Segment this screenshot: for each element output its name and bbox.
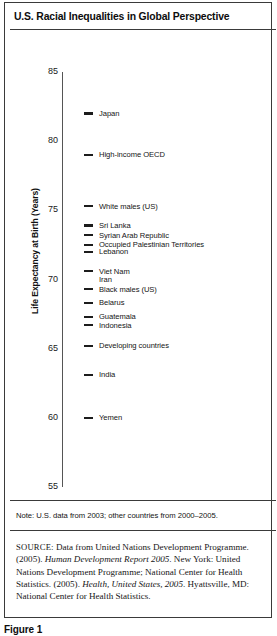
- figure-caption: Figure 1: [4, 624, 42, 635]
- data-point-marker: [84, 251, 93, 253]
- y-axis-tick-label: 85: [36, 67, 58, 76]
- data-point-marker: [84, 316, 93, 318]
- data-point-label: Yemen: [99, 414, 122, 422]
- data-point-marker: [84, 224, 93, 226]
- y-axis-tick-label: 70: [36, 275, 58, 284]
- data-point-marker: [84, 417, 93, 419]
- data-point-label: High-income OECD: [99, 151, 165, 159]
- data-point-marker: [84, 288, 93, 290]
- y-axis-line: [62, 72, 63, 487]
- data-point-marker: [84, 112, 93, 114]
- source-title-2: Health, United States, 2005: [82, 579, 183, 589]
- data-point-label: Iran: [99, 276, 112, 284]
- data-point-label: Lebanon: [99, 248, 128, 256]
- data-point-label: India: [99, 371, 115, 379]
- data-point-marker: [84, 302, 93, 304]
- y-axis-tick-label: 60: [36, 413, 58, 422]
- y-axis-tick-label: 80: [36, 136, 58, 145]
- figure-container: U.S. Racial Inequalities in Global Persp…: [4, 2, 272, 618]
- y-axis-title: Life Expectancy at Birth (Years): [30, 151, 40, 351]
- data-point-marker: [84, 345, 93, 347]
- title-divider: [10, 29, 276, 30]
- data-point-marker: [84, 244, 93, 246]
- data-point-label: Black males (US): [99, 286, 157, 294]
- data-point-label: Belarus: [99, 299, 124, 307]
- y-axis-tick-label: 75: [36, 205, 58, 214]
- chart-plot-area: Life Expectancy at Birth (Years) 8580757…: [5, 31, 273, 501]
- y-axis-tick-label: 65: [36, 344, 58, 353]
- note-divider: [10, 500, 276, 501]
- data-point-label: Developing countries: [99, 342, 169, 350]
- data-point-label: Syrian Arab Republic: [99, 232, 169, 240]
- page-title: U.S. Racial Inequalities in Global Persp…: [14, 11, 264, 23]
- data-point-marker: [84, 270, 93, 272]
- source-title-1: Human Development Report 2005: [45, 554, 170, 564]
- source-citation: SOURCE: Data from United Nations Develop…: [16, 541, 266, 602]
- data-point-marker: [84, 374, 93, 376]
- source-label: SOURCE: [16, 542, 51, 552]
- chart-note: Note: U.S. data from 2003; other countri…: [16, 511, 268, 520]
- data-point-marker: [84, 205, 93, 207]
- source-divider: [10, 530, 276, 531]
- data-point-label: Indonesia: [99, 322, 131, 330]
- data-point-label: Sri Lanka: [99, 222, 131, 230]
- data-point-label: White males (US): [99, 203, 158, 211]
- data-point-marker: [84, 154, 93, 156]
- data-point-marker: [84, 324, 93, 326]
- data-point-marker: [84, 234, 93, 236]
- data-point-label: Japan: [99, 110, 119, 118]
- y-axis-tick-label: 55: [36, 482, 58, 491]
- data-point-label: Guatemala: [99, 313, 136, 321]
